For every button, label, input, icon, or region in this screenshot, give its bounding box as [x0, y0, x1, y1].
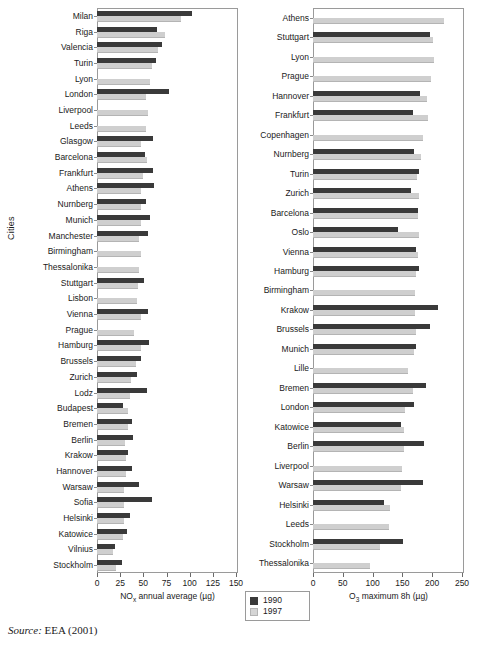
bar-row: Budapest: [97, 400, 238, 416]
bar-row: Valencia: [97, 39, 238, 55]
y-tick-mark: [94, 330, 97, 331]
bar-1997: [97, 424, 128, 430]
bar-1997: [97, 283, 138, 289]
y-tick-mark: [310, 446, 313, 447]
x-tick-mark: [120, 573, 121, 577]
x-tick-label: 75: [162, 578, 171, 588]
y-tick-label: Leeds: [70, 121, 93, 131]
bar-row: Zurich: [313, 183, 464, 202]
bar-row: Hannover: [313, 86, 464, 105]
y-tick-label: Munich: [66, 215, 93, 225]
bar-1997: [97, 141, 141, 147]
y-tick-label: Budapest: [57, 403, 93, 413]
bar-1997: [313, 485, 401, 491]
bar-row: Berlin: [97, 432, 238, 448]
y-tick-mark: [310, 213, 313, 214]
y-tick-mark: [94, 487, 97, 488]
bar-row: Hannover: [97, 463, 238, 479]
y-tick-label: Manchester: [49, 231, 93, 241]
y-tick-mark: [94, 549, 97, 550]
x-tick-mark: [213, 573, 214, 577]
y-tick-mark: [94, 345, 97, 346]
y-tick-label: Glasgow: [60, 136, 93, 146]
legend-entry-1990: 1990: [250, 595, 305, 606]
y-tick-mark: [310, 505, 313, 506]
bar-row: Katowice: [97, 526, 238, 542]
bar-row: Riga: [97, 24, 238, 40]
y-tick-label: Warsaw: [279, 480, 309, 490]
source-text: EEA (2001): [45, 624, 98, 636]
y-tick-label: Lyon: [75, 74, 93, 84]
bar-row: Prague: [313, 66, 464, 85]
y-tick-mark: [94, 204, 97, 205]
y-tick-mark: [310, 466, 313, 467]
bar-row: Milan: [97, 8, 238, 24]
bar-1997: [313, 174, 417, 180]
y-tick-mark: [94, 283, 97, 284]
y-tick-label: Bremen: [63, 419, 93, 429]
y-tick-mark: [94, 63, 97, 64]
bar-row: Lodz: [97, 385, 238, 401]
bar-row: Lille: [313, 359, 464, 378]
y-tick-mark: [310, 154, 313, 155]
y-tick-label: Nurnberg: [274, 149, 309, 159]
bar-1997: [97, 455, 126, 461]
y-tick-mark: [94, 188, 97, 189]
y-tick-mark: [94, 408, 97, 409]
x-tick-label: 200: [425, 578, 439, 588]
x-tick-mark: [190, 573, 191, 577]
bar-1997: [313, 135, 423, 141]
y-tick-mark: [94, 455, 97, 456]
bar-1997: [97, 298, 137, 304]
y-tick-mark: [94, 236, 97, 237]
bar-1997: [313, 505, 390, 511]
bar-rows-o3: AthensStuttgartLyonPragueHannoverFrankfu…: [313, 8, 464, 573]
y-tick-label: London: [65, 89, 93, 99]
bar-row: Frankfurt: [97, 165, 238, 181]
y-tick-mark: [310, 37, 313, 38]
bar-row: Stockholm: [97, 557, 238, 573]
y-tick-label: Thessalonika: [43, 262, 93, 272]
x-tick-label: 0: [311, 578, 316, 588]
y-tick-mark: [310, 76, 313, 77]
y-tick-label: Krakow: [281, 305, 309, 315]
x-tick-label: 150: [395, 578, 409, 588]
y-tick-label: Sofia: [74, 497, 93, 507]
y-tick-label: Leeds: [286, 519, 309, 529]
x-axis-title-o3: O3 maximum 8h (µg): [313, 591, 464, 603]
chart-panel-nox: MilanRigaValenciaTurinLyonLondonLiverpoo…: [97, 8, 238, 573]
bar-row: Nurnberg: [97, 196, 238, 212]
y-tick-mark: [94, 565, 97, 566]
bar-row: Prague: [97, 322, 238, 338]
x-tick-label: 100: [183, 578, 197, 588]
y-tick-label: Warsaw: [63, 482, 93, 492]
bar-row: Manchester: [97, 228, 238, 244]
y-tick-label: Hannover: [56, 466, 93, 476]
bar-row: Turin: [313, 164, 464, 183]
bar-1997: [97, 393, 130, 399]
y-tick-mark: [94, 126, 97, 127]
y-tick-mark: [310, 135, 313, 136]
bar-1997: [97, 502, 124, 508]
y-tick-label: Stuttgart: [61, 278, 93, 288]
x-tick-label: 100: [366, 578, 380, 588]
bar-row: Barcelona: [97, 149, 238, 165]
bar-row: Leeds: [97, 118, 238, 134]
y-tick-label: Stuttgart: [277, 32, 309, 42]
y-tick-label: Lyon: [291, 52, 309, 62]
y-tick-mark: [94, 534, 97, 535]
y-tick-mark: [310, 290, 313, 291]
bar-1997: [97, 534, 123, 540]
x-tick-label: 250: [455, 578, 469, 588]
y-tick-mark: [94, 267, 97, 268]
bar-row: Hamburg: [97, 338, 238, 354]
bar-1997: [97, 16, 181, 22]
y-tick-label: Riga: [76, 27, 93, 37]
y-tick-mark: [94, 141, 97, 142]
y-tick-label: Birmingham: [264, 285, 309, 295]
bar-1997: [97, 47, 158, 53]
y-tick-mark: [94, 16, 97, 17]
y-tick-mark: [94, 502, 97, 503]
y-tick-mark: [310, 368, 313, 369]
y-tick-label: Oslo: [292, 227, 309, 237]
